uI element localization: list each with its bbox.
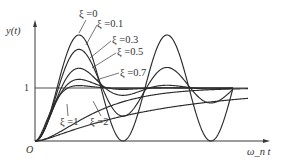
series-label-zeta-1: ξ =1 xyxy=(60,116,78,128)
leader-line-zeta-0-1 xyxy=(86,25,97,45)
leader-line-zeta-0-3 xyxy=(90,41,111,58)
series-label-zeta-0-3: ξ =0.3 xyxy=(112,34,138,46)
series-label-zeta-0-1: ξ =0.1 xyxy=(97,18,123,30)
leader-line-zeta-0-7 xyxy=(96,73,119,80)
series-labels: ξ =0ξ =0.1ξ =0.3ξ =0.5ξ =0.7ξ =1ξ =2 xyxy=(60,8,146,128)
leader-line-zeta-1 xyxy=(67,104,68,116)
leader-line-zeta-2 xyxy=(93,101,101,116)
y-tick-label-1: 1 xyxy=(24,82,29,93)
x-axis-arrow xyxy=(263,139,270,143)
leader-line-zeta-0-5 xyxy=(92,53,116,68)
curve-zeta-0-3 xyxy=(35,68,233,141)
series-label-zeta-0: ξ =0 xyxy=(79,8,97,20)
leader-line-zeta-0 xyxy=(79,20,86,33)
curve-zeta-0-1 xyxy=(35,49,233,141)
series-label-zeta-0-7: ξ =0.7 xyxy=(120,67,146,79)
y-axis-label: y(t) xyxy=(5,25,21,37)
origin-label: O xyxy=(26,144,33,155)
x-axis-label: ω_n t xyxy=(247,146,272,157)
step-response-chart: y(t) 1 O ω_n t ξ =0ξ =0.1ξ =0.3ξ =0.5ξ =… xyxy=(0,0,287,165)
series-label-zeta-2: ξ =2 xyxy=(90,116,108,128)
series-label-zeta-0-5: ξ =0.5 xyxy=(117,46,143,58)
y-axis-arrow xyxy=(33,20,37,27)
